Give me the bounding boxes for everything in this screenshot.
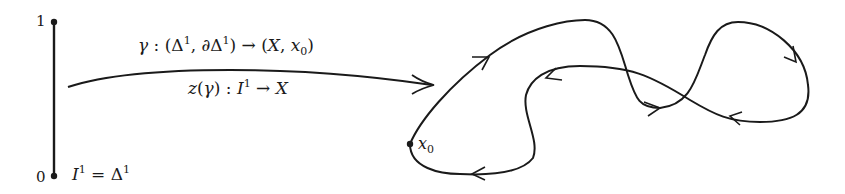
loop-arrowhead-icon [784,46,796,62]
loop-curve [410,20,808,174]
interval-top-label: 1 [36,14,46,29]
loop-arrowhead-icon [730,112,742,125]
interval-caption-lhs: I [72,164,79,184]
endpoint-1-dot [51,19,57,25]
loop-diagram: 1 0 I1 = Δ1 γ : (Δ1, ∂Δ1) → (X, x0) z(γ)… [0,0,845,194]
endpoint-0-dot [51,173,57,179]
loop-arrowhead-icon [644,102,660,116]
loop-arrowhead-icon [546,68,562,80]
interval-caption: I1 = Δ1 [72,166,130,183]
basepoint-label: x0 [418,136,434,152]
basepoint-dot [407,141,413,147]
arrow-top-label: γ : (Δ1, ∂Δ1) → (X, x0) [138,37,314,54]
arrow-bottom-label: z(γ) : I1 → X [188,80,288,97]
interval-bottom-label: 0 [36,170,46,185]
